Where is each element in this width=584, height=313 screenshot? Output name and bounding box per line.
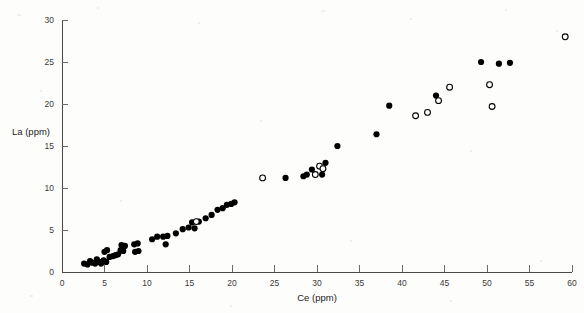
x-tick-label: 40 [397,278,407,288]
data-point-filled [322,160,328,166]
scatter-plot: 051015202530 051015202530354045505560 La… [0,0,584,313]
y-tick-label: 0 [49,267,54,277]
data-point-filled [496,61,502,67]
data-point-open [193,219,199,225]
x-tick-label: 20 [227,278,237,288]
x-tick-label: 55 [525,278,535,288]
y-tick-label: 5 [49,225,54,235]
data-point-filled [135,248,141,254]
data-point-filled [373,131,379,137]
y-tick-label: 20 [45,99,55,109]
data-point-open [489,104,495,110]
y-tick-label: 10 [45,183,55,193]
data-point-filled [154,234,160,240]
data-point-filled [135,240,141,246]
data-point-open [487,82,493,88]
data-point-filled [186,224,192,230]
data-point-filled [386,103,392,109]
data-point-open [312,172,318,178]
x-tick-label: 50 [482,278,492,288]
data-point-open [413,113,419,119]
data-point-open [447,84,453,90]
x-tick-label: 10 [142,278,152,288]
data-point-open [320,166,326,172]
data-point-open [425,110,431,116]
x-tick-label: 15 [185,278,195,288]
data-point-filled [164,233,170,239]
chart-figure: 051015202530 051015202530354045505560 La… [0,0,584,313]
data-point-filled [122,243,128,249]
data-point-filled [104,247,110,253]
data-point-filled [173,230,179,236]
x-axis-title: Ce (ppm) [297,292,337,303]
y-axis: 051015202530 [45,15,68,277]
data-point-filled [478,59,484,65]
data-point-filled [319,171,325,177]
data-point-open [260,175,266,181]
data-point-filled [180,226,186,232]
x-tick-label: 60 [567,278,577,288]
y-tick-label: 25 [45,57,55,67]
data-points-layer [81,34,568,268]
data-point-filled [192,225,198,231]
y-tick-label: 30 [45,15,55,25]
data-point-filled [304,171,310,177]
x-tick-label: 35 [355,278,365,288]
data-point-open [436,98,442,104]
x-tick-label: 25 [270,278,280,288]
y-tick-label: 15 [45,141,55,151]
x-tick-label: 30 [312,278,322,288]
data-point-filled [334,143,340,149]
data-point-filled [231,199,237,205]
y-axis-title: La (ppm) [12,126,50,137]
data-point-filled [507,60,513,66]
data-point-filled [282,175,288,181]
data-point-filled [209,212,215,218]
x-tick-label: 0 [60,278,65,288]
data-point-filled [103,259,109,265]
x-tick-label: 5 [102,278,107,288]
data-point-filled [203,215,209,221]
x-tick-label: 45 [440,278,450,288]
x-axis: 051015202530354045505560 [60,265,577,288]
data-point-open [562,34,568,40]
data-point-filled [163,241,169,247]
